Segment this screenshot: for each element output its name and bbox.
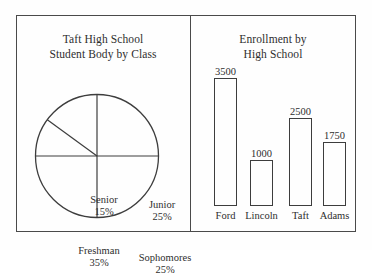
pie-chart-graphic: Senior 15% Junior 25% Freshman 35% Sopho…	[34, 93, 160, 219]
pie-slice-name-freshman: Freshman	[78, 245, 119, 256]
pie-chart-panel: Taft High School Student Body by Class S…	[16, 15, 190, 232]
bar-value-lincoln: 1000	[251, 148, 272, 159]
pie-slice-value-sophomores: 25%	[132, 264, 198, 276]
pie-slice-label-senior: Senior 15%	[78, 194, 130, 218]
pie-title-line2: Student Body by Class	[16, 47, 190, 62]
bar-chart-graphic: 3500 Ford 1000 Lincoln 2500 Taft 1750 Ad…	[190, 15, 356, 232]
pie-slice-value-freshman: 35%	[65, 257, 133, 269]
pie-chart-title: Taft High School Student Body by Class	[16, 32, 190, 61]
bar-rect-taft	[289, 118, 312, 206]
bar-value-taft: 2500	[290, 106, 311, 117]
bar-value-ford: 3500	[215, 66, 236, 77]
bar-column-lincoln: 1000 Lincoln	[250, 160, 273, 206]
bar-rect-lincoln	[250, 160, 273, 206]
pie-slice-name-senior: Senior	[90, 194, 117, 205]
pie-slice-value-senior: 15%	[78, 206, 130, 218]
bar-category-lincoln: Lincoln	[245, 210, 278, 222]
pie-slice-name-sophomores: Sophomores	[139, 252, 192, 263]
bar-rect-ford	[214, 78, 237, 206]
bar-rect-adams	[323, 142, 346, 206]
bar-category-ford: Ford	[216, 210, 236, 222]
pie-slice-label-sophomores: Sophomores 25%	[132, 252, 198, 276]
bar-category-taft: Taft	[292, 210, 309, 222]
bar-category-adams: Adams	[320, 210, 350, 222]
bar-chart-panel: Enrollment by High School 3500 Ford 1000…	[190, 15, 356, 232]
bar-value-adams: 1750	[324, 130, 345, 141]
pie-title-line1: Taft High School	[63, 33, 144, 45]
pie-slice-label-junior: Junior 25%	[138, 199, 186, 223]
pie-slice-label-freshman: Freshman 35%	[65, 245, 133, 269]
bar-column-taft: 2500 Taft	[289, 118, 312, 206]
bar-column-adams: 1750 Adams	[323, 142, 346, 206]
bar-column-ford: 3500 Ford	[214, 78, 237, 206]
pie-slice-name-junior: Junior	[149, 199, 175, 210]
pie-slice-value-junior: 25%	[138, 211, 186, 223]
